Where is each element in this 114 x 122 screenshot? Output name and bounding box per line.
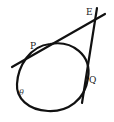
label-theta: θ (19, 88, 24, 97)
circle-shape (17, 43, 89, 111)
tangent-circle-diagram: E P Q θ (0, 0, 114, 122)
label-e: E (86, 7, 93, 17)
label-q: Q (89, 75, 96, 85)
label-p: P (30, 41, 36, 51)
